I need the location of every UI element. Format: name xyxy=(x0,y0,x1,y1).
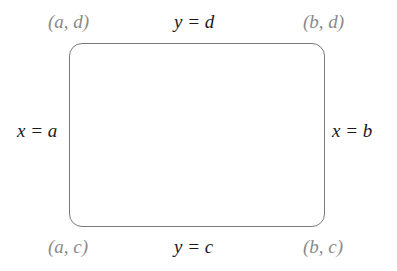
edge-label-left: x = a xyxy=(17,121,57,140)
edge-label-bottom: y = c xyxy=(174,237,213,256)
edge-label-top: y = d xyxy=(174,12,214,31)
corner-label-top-right: (b, d) xyxy=(303,12,344,31)
corner-label-bottom-right: (b, c) xyxy=(303,237,343,256)
corner-label-top-left: (a, d) xyxy=(48,12,89,31)
edge-label-right: x = b xyxy=(332,121,372,140)
corner-label-bottom-left: (a, c) xyxy=(48,237,88,256)
rectangular-region xyxy=(69,43,325,227)
